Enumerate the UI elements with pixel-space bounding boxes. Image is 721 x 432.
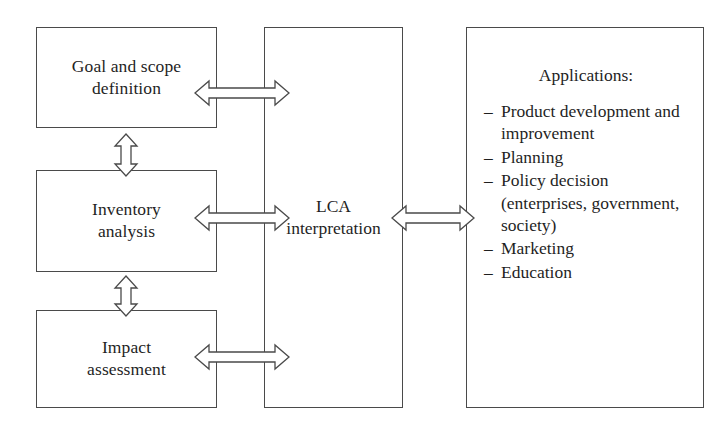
list-item-label: Product development and improvement [501,101,680,143]
lca-framework-diagram: Goal and scopedefinition Inventoryanalys… [0,0,721,432]
applications-list: – Product development and improvement – … [478,100,694,283]
stage-box-goal-scope[interactable]: Goal and scopedefinition [36,27,217,128]
applications-content: Applications: – Product development and … [466,27,704,408]
list-item[interactable]: – Policy decision (enterprises, governme… [484,169,694,236]
connector-interpretation-to-applications [392,206,474,230]
list-item[interactable]: – Planning [484,146,694,168]
bullet-dash-icon: – [484,237,493,259]
stage-label-goal-scope: Goal and scopedefinition [72,56,181,100]
bullet-dash-icon: – [484,100,493,122]
bullet-dash-icon: – [484,169,493,191]
list-item-label: Planning [501,147,563,167]
bullet-dash-icon: – [484,146,493,168]
stage-label-inventory-analysis: Inventoryanalysis [92,199,161,243]
stage-box-impact-assessment[interactable]: Impactassessment [36,310,217,408]
stage-box-inventory-analysis[interactable]: Inventoryanalysis [36,170,217,272]
interpretation-panel[interactable] [264,27,403,408]
list-item-label: Policy decision (enterprises, government… [501,170,679,235]
list-item[interactable]: – Product development and improvement [484,100,694,145]
list-item[interactable]: – Marketing [484,237,694,259]
list-item-label: Education [501,262,572,282]
list-item-label: Marketing [501,238,574,258]
bullet-dash-icon: – [484,261,493,283]
stage-label-impact-assessment: Impactassessment [87,337,166,381]
applications-title: Applications: [478,65,694,86]
list-item[interactable]: – Education [484,261,694,283]
